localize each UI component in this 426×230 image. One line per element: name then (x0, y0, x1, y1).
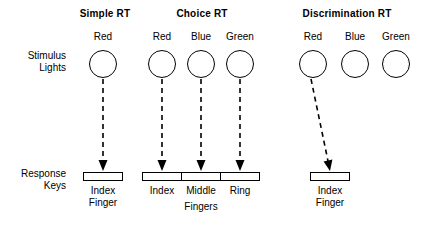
key-label-discrimination-index: Index Finger (300, 185, 360, 209)
key-label-discrimination-index-line1: Index (300, 185, 360, 197)
reaction-time-diagram: Simple RT Choice RT Discrimination RT St… (0, 0, 426, 230)
response-key-discrimination-index (310, 172, 350, 181)
connector-discrimination-red-to-index (0, 0, 426, 230)
key-label-discrimination-index-line2: Finger (300, 197, 360, 209)
